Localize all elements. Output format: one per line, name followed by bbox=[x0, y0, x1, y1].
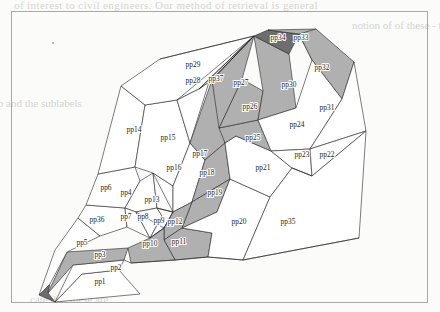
polygon-label-pp29: pp29 bbox=[186, 60, 201, 69]
polygon-label-pp1: pp1 bbox=[94, 277, 105, 286]
polygon-label-pp2: pp2 bbox=[110, 263, 121, 272]
map-edge-14 bbox=[124, 260, 131, 263]
polygon-label-pp11: pp11 bbox=[172, 237, 187, 246]
polygon-label-pp6: pp6 bbox=[100, 183, 111, 192]
polygon-label-pp27: pp27 bbox=[234, 78, 249, 87]
polygon-label-pp19: pp19 bbox=[208, 188, 223, 197]
polygon-label-pp37: pp37 bbox=[209, 74, 224, 83]
polygon-label-pp8: pp8 bbox=[137, 212, 148, 221]
polygon-label-pp14: pp14 bbox=[127, 125, 142, 134]
polygon-label-pp33: pp33 bbox=[294, 33, 309, 42]
polygon-label-pp20: pp20 bbox=[232, 217, 247, 226]
scan-speck bbox=[52, 42, 54, 44]
polygon-label-pp7: pp7 bbox=[120, 212, 131, 221]
polygon-label-pp21: pp21 bbox=[256, 163, 271, 172]
polygon-label-pp16: pp16 bbox=[167, 163, 182, 172]
polygon-label-pp36: pp36 bbox=[90, 215, 105, 224]
polygon-label-pp5: pp5 bbox=[76, 238, 87, 247]
polygon-label-pp32: pp32 bbox=[315, 63, 330, 72]
polygon-label-pp35: pp35 bbox=[281, 217, 296, 226]
polygon-label-pp34: pp34 bbox=[271, 33, 286, 42]
polygon-label-pp4: pp4 bbox=[120, 188, 131, 197]
polygon-label-pp12: pp12 bbox=[168, 217, 183, 226]
polygon-label-pp22: pp22 bbox=[320, 150, 335, 159]
polygon-label-pp25: pp25 bbox=[246, 133, 261, 142]
polygon-label-pp17: pp17 bbox=[193, 149, 208, 158]
polygon-label-pp10: pp10 bbox=[143, 239, 158, 248]
polygon-label-pp15: pp15 bbox=[161, 133, 176, 142]
polygon-label-pp26: pp26 bbox=[243, 102, 258, 111]
polygon-label-pp28: pp28 bbox=[186, 76, 201, 85]
polygon-label-pp18: pp18 bbox=[200, 168, 215, 177]
polygon-label-pp24: pp24 bbox=[290, 120, 305, 129]
polygon-label-pp31: pp31 bbox=[320, 103, 335, 112]
polygon-map: pp1pp2pp3pp5pp36pp6pp4pp7pp8pp9pp13pp14p… bbox=[12, 12, 429, 304]
polygon-label-pp23: pp23 bbox=[295, 150, 310, 159]
polygon-label-pp9: pp9 bbox=[153, 216, 164, 225]
polygon-label-pp3: pp3 bbox=[94, 250, 105, 259]
polygon-label-pp13: pp13 bbox=[145, 195, 160, 204]
figure-frame: pp1pp2pp3pp5pp36pp6pp4pp7pp8pp9pp13pp14p… bbox=[11, 11, 428, 303]
polygon-label-pp30: pp30 bbox=[282, 80, 297, 89]
